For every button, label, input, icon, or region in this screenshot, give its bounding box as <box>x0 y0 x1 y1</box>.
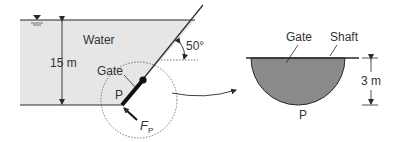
section-point-p-label: P <box>299 108 307 122</box>
section-shaft-label: Shaft <box>330 30 359 44</box>
section-gate-label: Gate <box>286 30 312 44</box>
gate-section-view <box>246 45 359 105</box>
gate-label: Gate <box>97 64 123 78</box>
shaft-icon <box>139 76 146 83</box>
water-label: Water <box>83 33 115 47</box>
connector-arrow <box>172 90 236 96</box>
force-subscript: P <box>148 126 153 135</box>
force-label: FP <box>140 118 153 135</box>
figure-canvas: 15 m Water 50° Gate P FP Gate Shaft P 3 … <box>0 0 395 142</box>
angle-label: 50° <box>186 39 204 53</box>
point-p-label: P <box>115 88 123 102</box>
depth-label: 15 m <box>50 56 77 70</box>
force-arrow <box>124 108 137 120</box>
radius-label: 3 m <box>361 74 381 88</box>
